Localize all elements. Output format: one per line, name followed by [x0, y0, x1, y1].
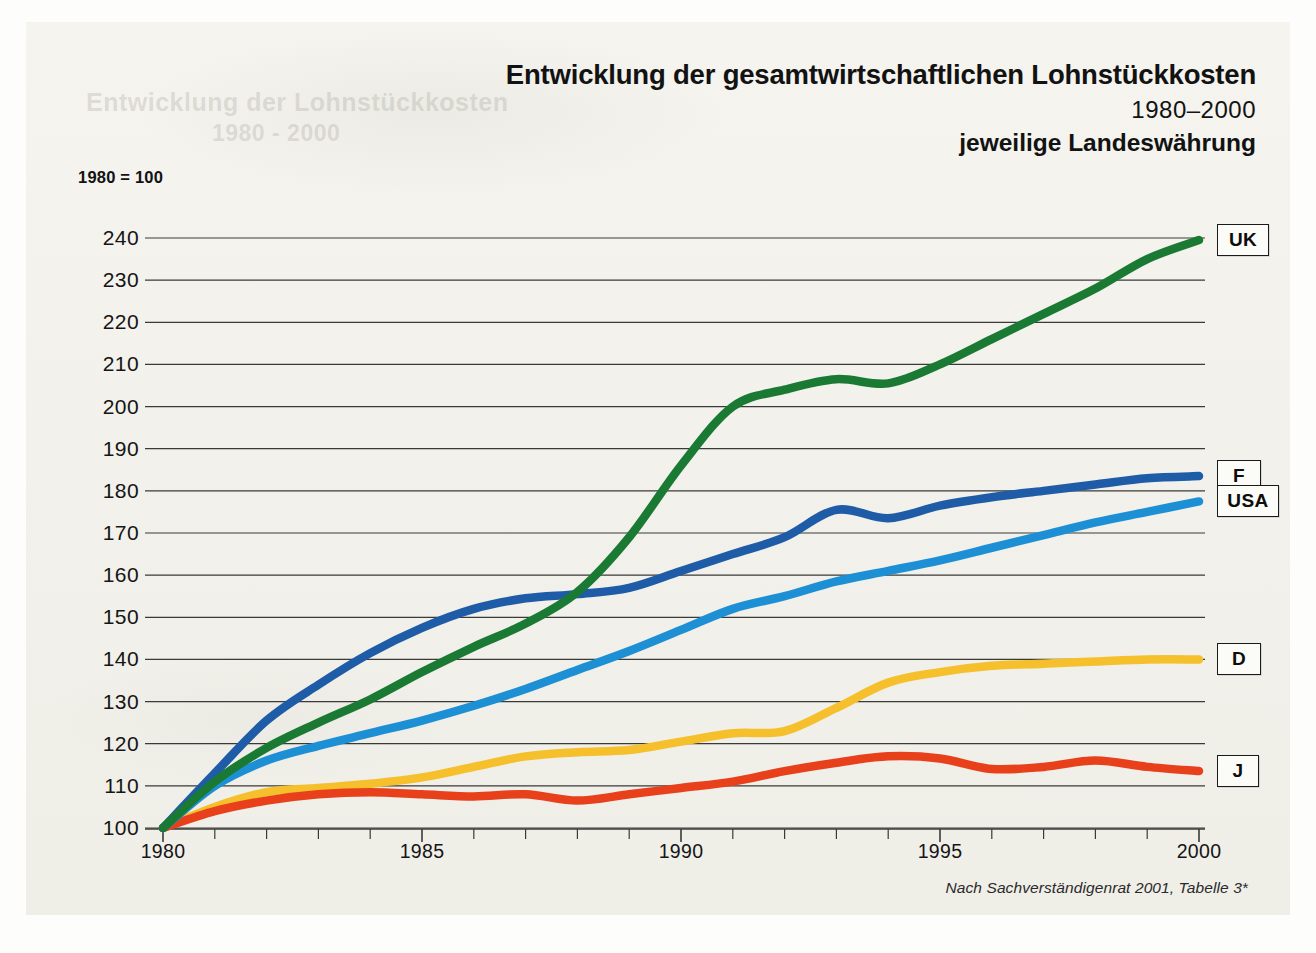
series-tag-j[interactable]: J [1217, 755, 1259, 787]
series-j [163, 756, 1199, 828]
series-tag-usa[interactable]: USA [1217, 485, 1279, 517]
y-axis-tick-label: 180 [83, 479, 139, 503]
page-canvas: Entwicklung der Lohnstückkosten 1980 - 2… [0, 0, 1316, 953]
series-line-f [163, 476, 1199, 828]
x-axis-tick-label: 1995 [918, 840, 963, 863]
y-axis-tick-label: 200 [83, 395, 139, 419]
y-axis-tick-label: 240 [83, 226, 139, 250]
y-axis-tick-label: 120 [83, 732, 139, 756]
y-axis-tick-label: 210 [83, 352, 139, 376]
y-axis-tick-label: 100 [83, 816, 139, 840]
y-axis-tick-label: 140 [83, 647, 139, 671]
x-axis-tick-label: 1990 [659, 840, 704, 863]
y-axis-tick-label: 230 [83, 268, 139, 292]
x-axis-tick-label: 1980 [141, 840, 186, 863]
x-axis-tick-label: 1985 [400, 840, 445, 863]
series-tag-uk[interactable]: UK [1217, 224, 1269, 256]
x-axis-tick-label: 2000 [1177, 840, 1222, 863]
chart-svg [0, 0, 1316, 953]
y-axis-tick-label: 170 [83, 521, 139, 545]
series-f [163, 476, 1199, 828]
series-tag-d[interactable]: D [1217, 643, 1261, 675]
chart-plot-area: 1001101201301401501601701801902002102202… [0, 0, 1316, 953]
y-axis-tick-label: 110 [83, 774, 139, 798]
y-axis-tick-label: 130 [83, 690, 139, 714]
source-note: Nach Sachverständigenrat 2001, Tabelle 3… [945, 879, 1248, 897]
y-axis-tick-label: 190 [83, 437, 139, 461]
y-axis-tick-label: 160 [83, 563, 139, 587]
y-axis-tick-label: 220 [83, 310, 139, 334]
y-axis-tick-label: 150 [83, 605, 139, 629]
series-line-j [163, 756, 1199, 828]
